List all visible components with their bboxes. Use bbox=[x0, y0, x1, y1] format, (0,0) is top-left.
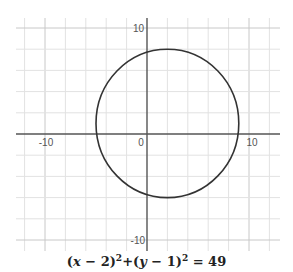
equation-caption: (x − 2)2+(y − 1)2 = 49 bbox=[0, 253, 293, 269]
x-tick-label-10: 10 bbox=[246, 137, 258, 148]
origin-label: 0 bbox=[138, 137, 144, 148]
y-tick-label-neg10: -10 bbox=[131, 235, 146, 246]
axes bbox=[16, 18, 280, 251]
graph-plot: -10 0 10 10 -10 bbox=[0, 0, 293, 252]
y-tick-label-10: 10 bbox=[133, 23, 145, 34]
x-tick-label-neg10: -10 bbox=[39, 137, 54, 148]
